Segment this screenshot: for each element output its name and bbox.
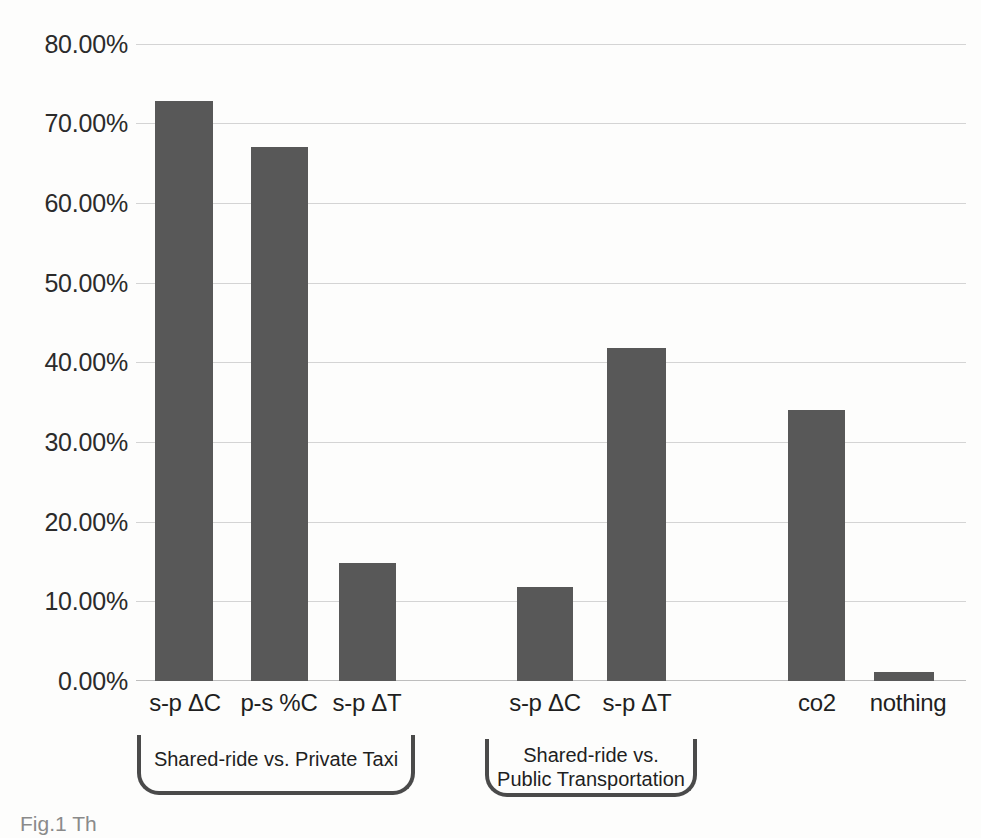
category-label-2: s-p ΔT [307,689,427,717]
y-tick-label-30: 30.00% [6,428,128,457]
y-tick-label-70: 70.00% [6,109,128,138]
bar-2 [339,563,396,681]
bar-1 [251,147,308,681]
y-tick-label-0: 0.00% [6,667,128,696]
category-label-6: nothing [848,689,968,717]
y-axis: 80.00% 70.00% 60.00% 50.00% 40.00% 30.00… [0,0,128,838]
y-tick-label-40: 40.00% [6,348,128,377]
gridline-80 [136,44,966,45]
group-label-0: Shared-ride vs. Private Taxi [137,748,415,772]
y-tick-label-20: 20.00% [6,508,128,537]
y-tick-label-80: 80.00% [6,30,128,59]
bar-3 [517,587,573,681]
category-label-4: s-p ΔT [577,689,697,717]
gridline-70 [136,123,966,124]
y-tick-label-50: 50.00% [6,269,128,298]
chart-figure: 80.00% 70.00% 60.00% 50.00% 40.00% 30.00… [0,0,981,838]
y-tick-label-60: 60.00% [6,189,128,218]
group-label-1: Shared-ride vs. Public Transportation [480,744,702,791]
y-tick-label-10: 10.00% [6,587,128,616]
bar-0 [155,101,213,681]
figure-caption-fragment: Fig.1 Th [20,812,140,838]
bar-4 [607,348,666,681]
bar-5 [788,410,845,681]
bar-6 [874,672,934,681]
plot-area [136,44,966,681]
